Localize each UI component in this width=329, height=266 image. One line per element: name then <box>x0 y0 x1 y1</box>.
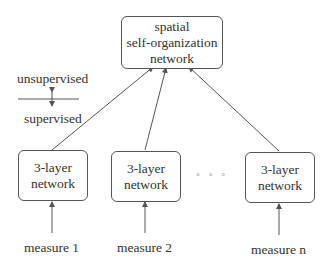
node-label: 3-layer <box>261 162 299 178</box>
node-label: network <box>258 178 302 194</box>
node-label: network <box>150 51 194 67</box>
input-measure-2: measure 2 <box>117 240 172 256</box>
network-node-2: 3-layer network <box>111 151 181 202</box>
input-measure-n: measure n <box>251 242 306 258</box>
node-label: network <box>31 176 75 192</box>
network-node-n: 3-layer network <box>245 152 315 203</box>
node-label: 3-layer <box>34 160 72 176</box>
node-label: network <box>124 177 168 193</box>
legend-unsupervised: unsupervised <box>17 71 88 87</box>
network-node-1: 3-layer network <box>18 150 88 201</box>
spatial-self-organization-node: spatial self-organization network <box>121 16 223 69</box>
node-label: spatial <box>154 19 189 35</box>
input-measure-1: measure 1 <box>24 240 79 256</box>
ellipsis: ◦ ◦ ◦ <box>196 168 228 180</box>
node-label: self-organization <box>126 35 217 51</box>
legend-supervised: supervised <box>24 111 82 127</box>
node-label: 3-layer <box>127 161 165 177</box>
